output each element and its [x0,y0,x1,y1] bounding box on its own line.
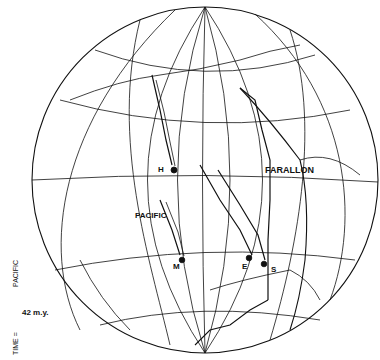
meridian [148,7,206,353]
parallel [100,311,320,325]
time-label: TIME = [12,332,19,355]
americas-coast [240,88,307,330]
hotspot-h-label: H [158,166,164,174]
hotspot-s-label: S [271,266,276,274]
meridian [205,7,263,353]
age-label: 42 m.y. [22,309,49,317]
frame-label: PACIFIC [12,260,19,287]
globe-outline [32,7,378,353]
globe-map [0,0,380,360]
meridian [178,7,206,353]
hotspot-m-label: M [173,263,180,271]
track-m [160,200,180,255]
track-e [200,165,252,255]
hotspot-e-label: E [242,263,247,271]
farallon-plate-label: FARALLON [265,166,314,175]
meridian [203,7,206,353]
hotspot-h-dot [171,167,177,173]
parallel [55,252,355,270]
parallel [60,100,350,123]
pacific-plate-label: PACIFIC [135,212,166,220]
equator [32,175,378,182]
